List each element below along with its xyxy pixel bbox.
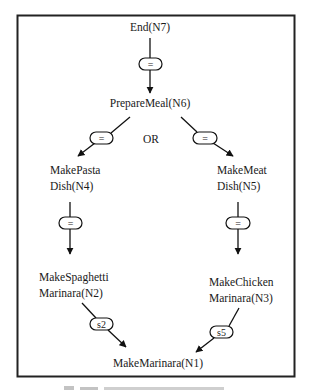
edge-n5-n3: = bbox=[226, 202, 250, 254]
svg-text:MakeSpaghetti: MakeSpaghetti bbox=[39, 271, 109, 284]
edge-n2-n1: s2 bbox=[82, 303, 126, 347]
node-makespaghettimarinara-n2: MakeSpaghetti Marinara(N2) bbox=[39, 271, 109, 300]
edge-n3-n1: s5 bbox=[196, 308, 239, 352]
node-preparemeal-n6: PrepareMeal(N6) bbox=[110, 97, 191, 110]
node-end-n7: End(N7) bbox=[130, 21, 170, 34]
svg-text:s2: s2 bbox=[97, 319, 106, 330]
node-makemarinara-n1: MakeMarinara(N1) bbox=[113, 357, 203, 370]
svg-text:Dish(N5): Dish(N5) bbox=[217, 180, 261, 193]
svg-text:=: = bbox=[235, 218, 241, 229]
svg-text:=: = bbox=[202, 133, 208, 144]
caption-cutoff bbox=[64, 386, 224, 390]
edge-n6-n4: = bbox=[78, 117, 130, 156]
plan-diagram: End(N7) = PrepareMeal(N6) = OR = MakePas… bbox=[0, 0, 309, 390]
svg-text:Marinara(N3): Marinara(N3) bbox=[209, 292, 273, 305]
node-makechickenmarinara-n3: MakeChicken Marinara(N3) bbox=[209, 276, 274, 305]
svg-text:s5: s5 bbox=[217, 327, 226, 338]
edge-n4-n2: = bbox=[59, 202, 82, 254]
edge-n6-n5: = bbox=[181, 117, 233, 156]
node-makepastadish-n4: MakePasta Dish(N4) bbox=[50, 164, 100, 193]
svg-text:Marinara(N2): Marinara(N2) bbox=[39, 287, 103, 300]
svg-text:=: = bbox=[68, 218, 74, 229]
svg-text:=: = bbox=[99, 133, 105, 144]
svg-text:MakeChicken: MakeChicken bbox=[209, 276, 274, 288]
or-label: OR bbox=[143, 133, 159, 145]
svg-text:MakeMeat: MakeMeat bbox=[217, 164, 268, 176]
edge-n7-n6: = bbox=[139, 38, 162, 93]
svg-text:MakePasta: MakePasta bbox=[50, 164, 100, 176]
svg-text:Dish(N4): Dish(N4) bbox=[50, 180, 94, 193]
node-makemeatdish-n5: MakeMeat Dish(N5) bbox=[217, 164, 268, 193]
svg-text:=: = bbox=[148, 59, 154, 70]
